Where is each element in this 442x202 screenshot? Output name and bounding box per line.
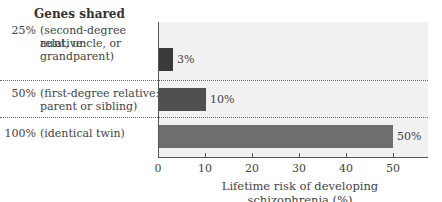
- category-desc-line: parent or sibling): [40, 100, 160, 113]
- category-desc-line: (identical twin): [40, 127, 160, 140]
- x-tick: [205, 153, 206, 157]
- bar-first-degree: [159, 88, 206, 111]
- y-axis-line: [158, 22, 159, 157]
- x-tick: [346, 153, 347, 157]
- row-separator: [0, 117, 428, 118]
- y-axis-header: Genes shared: [34, 7, 125, 21]
- genes-shared-pct: 50%: [0, 87, 36, 100]
- category-label-identical-twin: 100% (identical twin): [0, 127, 160, 143]
- genes-shared-pct: 25%: [0, 24, 36, 37]
- x-tick: [299, 153, 300, 157]
- category-label-second-degree: 25% (second-degree relative: aunt, uncle…: [0, 24, 160, 74]
- x-tick-label: 40: [331, 162, 361, 175]
- x-tick-label: 20: [237, 162, 267, 175]
- x-axis-title: Lifetime risk of developing schizophreni…: [180, 179, 420, 202]
- genes-shared-pct: 100%: [0, 127, 36, 140]
- x-tick-label: 30: [284, 162, 314, 175]
- bar-value-label: 50%: [397, 130, 421, 143]
- x-tick: [252, 153, 253, 157]
- x-tick: [158, 153, 159, 157]
- bar-value-label: 10%: [210, 93, 234, 106]
- bar-second-degree: [159, 48, 173, 71]
- category-desc-line: aunt, uncle, or: [40, 37, 160, 50]
- x-tick-label: 10: [190, 162, 220, 175]
- x-axis-line: [158, 157, 428, 158]
- category-desc-line: (first-degree relative:: [40, 87, 160, 100]
- category-label-first-degree: 50% (first-degree relative: parent or si…: [0, 87, 160, 117]
- x-tick-label: 0: [143, 162, 173, 175]
- row-separator: [0, 80, 428, 81]
- category-desc-line: grandparent): [40, 50, 160, 63]
- bar-value-label: 3%: [177, 53, 194, 66]
- x-tick-label: 50: [378, 162, 408, 175]
- bar-identical-twin: [159, 125, 393, 148]
- x-tick: [393, 153, 394, 157]
